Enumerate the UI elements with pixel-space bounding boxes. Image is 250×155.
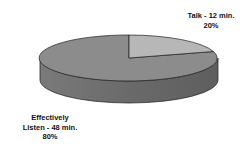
talk-label-percent: 20% — [176, 21, 246, 31]
listen-label-text-1: Effectively — [10, 113, 90, 123]
listen-label-text-2: Listen - 48 min. — [10, 123, 90, 133]
data-label-listen: Effectively Listen - 48 min. 80% — [10, 113, 90, 142]
data-label-talk: Talk - 12 min. 20% — [176, 11, 246, 30]
listen-label-percent: 80% — [10, 132, 90, 142]
talk-label-text: Talk - 12 min. — [176, 11, 246, 21]
